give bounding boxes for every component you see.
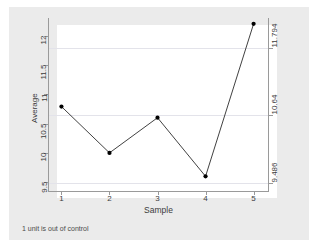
series-line (61, 24, 253, 176)
data-point-marker (251, 22, 255, 26)
y-axis-title: Average (30, 93, 39, 123)
x-axis-title: Sample (48, 205, 269, 215)
data-point-marker (203, 174, 207, 178)
data-point-marker (107, 151, 111, 155)
out-of-control-note: 1 unit is out of control (22, 225, 89, 232)
data-point-marker (59, 104, 63, 108)
chart-screenshot: 9.51010.51111.512 12345 11.79410.649.486… (0, 0, 318, 247)
data-point-marker (155, 116, 159, 120)
